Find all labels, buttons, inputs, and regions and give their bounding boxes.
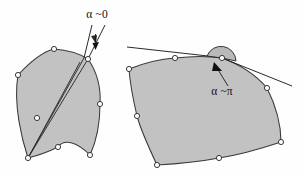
right-vertex-dot [216,155,221,160]
right-angle-label: α ~π [211,85,233,97]
left-vertex-dot [15,72,20,77]
left-vertex-dot [87,152,92,157]
right-vertex-dot [264,85,269,90]
right-vertex-dot [154,162,159,167]
right-vertex-dot [219,55,224,60]
left-vertex-dot [34,115,39,120]
left-vertex-dot [25,155,30,160]
right-vertex-dot [172,55,177,60]
left-vertex-dot [55,144,60,149]
figure-root: α ~0 α ~π [0,0,305,177]
left-panel-group: α ~0 [15,8,107,161]
right-vertex-dot [134,113,139,118]
left-angle-label: α ~0 [86,8,108,20]
diagram-canvas: α ~0 α ~π [0,0,305,177]
left-vertex-dot [51,46,56,51]
left-vertex-dot [85,56,90,61]
left-vertex-dot [97,101,102,106]
right-vertex-dot [126,66,131,71]
right-vertex-dot [278,139,283,144]
right-panel-group: α ~π [126,46,292,167]
